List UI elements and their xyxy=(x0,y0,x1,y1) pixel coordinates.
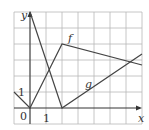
y-axis-label: y xyxy=(20,9,28,22)
x-tick-1-label: 1 xyxy=(43,112,50,125)
g-label: g xyxy=(85,78,92,91)
grid xyxy=(14,12,142,124)
origin-label: 0 xyxy=(20,110,27,123)
x-axis-arrow-icon xyxy=(136,106,142,111)
function-graph: y x 0 1 1 f g xyxy=(0,0,149,130)
y-tick-1-label: 1 xyxy=(18,86,25,99)
f-label: f xyxy=(67,32,74,45)
x-axis-label: x xyxy=(138,112,145,125)
